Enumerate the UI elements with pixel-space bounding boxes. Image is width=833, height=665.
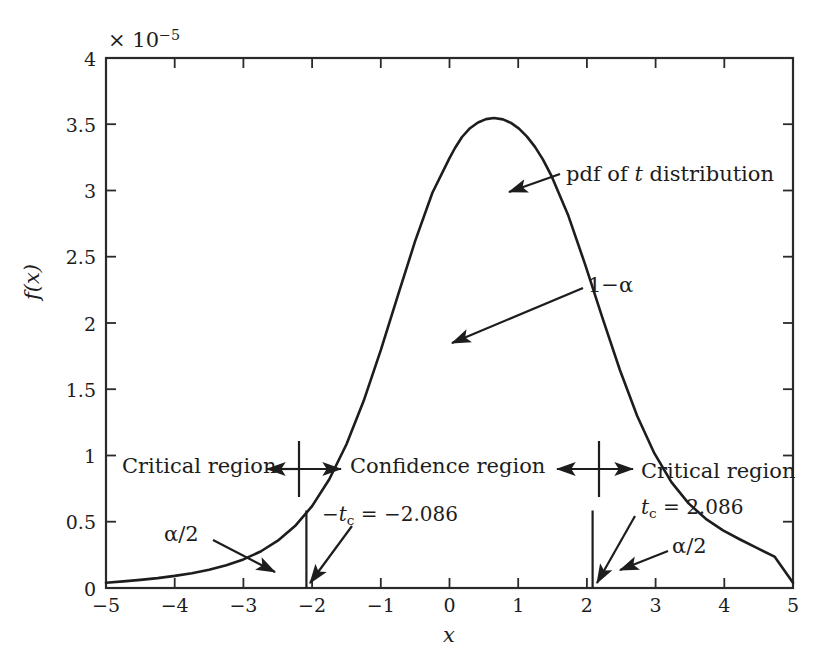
arrow-pdf-label (509, 174, 560, 192)
t-critical-negative-value: = −2.086 (354, 502, 458, 526)
x-tick-label-1: −4 (155, 596, 195, 615)
y-tick-label-8: 4 (48, 50, 96, 69)
x-axis-label: x (443, 625, 455, 646)
confidence-region-label: Confidence region (350, 456, 545, 477)
x-tick-label-10: 5 (773, 596, 813, 615)
arrow-t-critical-negative (310, 526, 352, 583)
t-critical-negative-prefix: −t (322, 502, 347, 526)
x-tick-label-3: −2 (292, 596, 332, 615)
x-tick-label-8: 3 (636, 596, 676, 615)
y-axis-label-f: f (20, 292, 44, 300)
y-axis-multiplier-exponent: −5 (159, 27, 180, 43)
y-tick-label-3: 1.5 (48, 381, 96, 400)
y-axis-label: f(x) (22, 264, 43, 300)
pdf-label-prefix: pdf of (566, 162, 634, 186)
critical-region-right-label: Critical region (641, 461, 795, 482)
x-tick-label-5: 0 (430, 596, 470, 615)
y-tick-label-4: 2 (48, 315, 96, 334)
pdf-label-t: t (634, 162, 642, 186)
critical-region-left-label: Critical region (122, 456, 276, 477)
x-tick-label-0: −5 (86, 596, 126, 615)
y-axis-label-arg: (x) (20, 264, 44, 292)
t-critical-positive-prefix: t (641, 495, 649, 519)
y-tick-label-1: 0.5 (48, 513, 96, 532)
x-tick-label-2: −3 (223, 596, 263, 615)
arrow-t-critical-positive (597, 516, 635, 583)
x-tick-label-9: 4 (704, 596, 744, 615)
alpha-half-right-label: α/2 (672, 536, 707, 557)
y-tick-label-5: 2.5 (48, 248, 96, 267)
plot-canvas (0, 0, 833, 665)
y-tick-label-6: 3 (48, 182, 96, 201)
t-critical-positive-subscript: c (649, 505, 657, 521)
arrow-alpha-half-right (620, 551, 668, 570)
x-tick-label-7: 2 (567, 596, 607, 615)
one-minus-alpha-label: 1−α (588, 275, 633, 296)
x-axis-ticks-bottom (106, 578, 793, 588)
t-critical-negative-label: −tc = −2.086 (322, 504, 458, 527)
y-tick-label-2: 1 (48, 447, 96, 466)
y-axis-multiplier-base: × 10 (108, 28, 159, 52)
x-tick-label-6: 1 (498, 596, 538, 615)
y-axis-ticks-left (106, 58, 116, 588)
x-axis-ticks-top (175, 58, 725, 68)
x-tick-label-4: −1 (361, 596, 401, 615)
y-axis-multiplier: × 10−5 (108, 28, 180, 51)
t-distribution-figure: × 10−5 0 0.5 1 1.5 2 2.5 3 3.5 4 −5 −4 −… (0, 0, 833, 665)
t-critical-positive-label: tc = 2.086 (641, 497, 743, 520)
y-tick-label-7: 3.5 (48, 116, 96, 135)
pdf-label: pdf of t distribution (566, 164, 774, 185)
alpha-half-left-label: α/2 (164, 524, 199, 545)
arrow-one-minus-alpha (452, 288, 583, 343)
pdf-label-suffix: distribution (643, 162, 774, 186)
t-critical-positive-value: = 2.086 (657, 495, 744, 519)
